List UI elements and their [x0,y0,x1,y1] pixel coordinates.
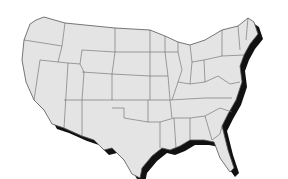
map-land [22,17,258,178]
us-map [0,0,288,179]
